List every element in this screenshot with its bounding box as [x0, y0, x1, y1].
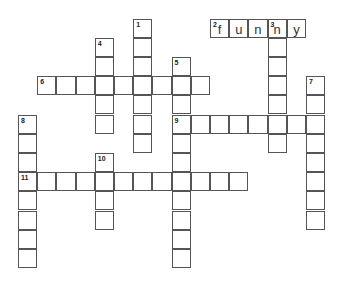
- crossword-cell[interactable]: [306, 211, 325, 230]
- crossword-cell[interactable]: u: [229, 19, 248, 38]
- crossword-cell[interactable]: [172, 153, 191, 172]
- crossword-cell[interactable]: n: [248, 19, 267, 38]
- crossword-cell[interactable]: [306, 134, 325, 153]
- crossword-cell[interactable]: [191, 172, 210, 191]
- crossword-cell[interactable]: [268, 76, 287, 95]
- clue-number: 6: [40, 78, 44, 85]
- crossword-cell[interactable]: [133, 115, 152, 134]
- crossword-cell[interactable]: [114, 76, 133, 95]
- crossword-cell[interactable]: [133, 76, 152, 95]
- crossword-cell[interactable]: [133, 95, 152, 114]
- cell-letter: u: [230, 23, 247, 36]
- crossword-cell[interactable]: 3n: [268, 19, 287, 38]
- crossword-cell[interactable]: [95, 191, 114, 210]
- crossword-cell[interactable]: 9: [172, 115, 191, 134]
- crossword-cell[interactable]: [268, 38, 287, 57]
- crossword-cell[interactable]: 4: [95, 38, 114, 57]
- crossword-cell[interactable]: [152, 172, 171, 191]
- crossword-cell[interactable]: [172, 172, 191, 191]
- crossword-cell[interactable]: [191, 76, 210, 95]
- crossword-cell[interactable]: 2f: [210, 19, 229, 38]
- crossword-cell[interactable]: [95, 211, 114, 230]
- crossword-cell[interactable]: [306, 191, 325, 210]
- clue-number: 4: [98, 40, 102, 47]
- crossword-cell[interactable]: [18, 249, 37, 268]
- crossword-cell[interactable]: [268, 57, 287, 76]
- clue-number: 5: [175, 59, 179, 66]
- crossword-cell[interactable]: [133, 172, 152, 191]
- cell-letter: n: [269, 23, 286, 36]
- crossword-cell[interactable]: 11: [18, 172, 37, 191]
- crossword-cell[interactable]: [76, 76, 95, 95]
- cell-letter: f: [211, 23, 228, 36]
- crossword-cell[interactable]: [18, 230, 37, 249]
- crossword-cell[interactable]: [18, 134, 37, 153]
- crossword-cell[interactable]: [95, 115, 114, 134]
- clue-number: 1: [136, 21, 140, 28]
- crossword-cell[interactable]: [191, 115, 210, 134]
- crossword-cell[interactable]: [306, 172, 325, 191]
- crossword-cell[interactable]: [210, 172, 229, 191]
- crossword-cell[interactable]: [229, 172, 248, 191]
- crossword-cell[interactable]: [133, 38, 152, 57]
- crossword-cell[interactable]: [172, 249, 191, 268]
- crossword-cell[interactable]: [172, 95, 191, 114]
- crossword-cell[interactable]: 5: [172, 57, 191, 76]
- crossword-cell[interactable]: [95, 57, 114, 76]
- crossword-cell[interactable]: [287, 115, 306, 134]
- clue-number: 10: [98, 155, 106, 162]
- crossword-cell[interactable]: y: [287, 19, 306, 38]
- crossword-cell[interactable]: [268, 95, 287, 114]
- crossword-cell[interactable]: [76, 172, 95, 191]
- cell-letter: n: [249, 23, 266, 36]
- clue-number: 7: [309, 78, 313, 85]
- crossword-cell[interactable]: [56, 172, 75, 191]
- crossword-cell[interactable]: [248, 115, 267, 134]
- crossword-cell[interactable]: [268, 115, 287, 134]
- crossword-cell[interactable]: [306, 115, 325, 134]
- crossword-cell[interactable]: 8: [18, 115, 37, 134]
- clue-number: 11: [21, 174, 28, 181]
- clue-number: 8: [21, 117, 25, 124]
- crossword-cell[interactable]: [18, 191, 37, 210]
- crossword-cell[interactable]: [172, 134, 191, 153]
- crossword-cell[interactable]: [229, 115, 248, 134]
- crossword-cell[interactable]: [172, 76, 191, 95]
- crossword-cell[interactable]: [133, 57, 152, 76]
- crossword-cell[interactable]: [210, 115, 229, 134]
- crossword-cell[interactable]: 6: [37, 76, 56, 95]
- crossword-cell[interactable]: [306, 95, 325, 114]
- crossword-cell[interactable]: [56, 76, 75, 95]
- crossword-cell[interactable]: [18, 153, 37, 172]
- crossword-cell[interactable]: [95, 172, 114, 191]
- crossword-cell[interactable]: [268, 134, 287, 153]
- crossword-cell[interactable]: [95, 95, 114, 114]
- crossword-cell[interactable]: [306, 153, 325, 172]
- cell-letter: y: [288, 23, 305, 36]
- crossword-cell[interactable]: 1: [133, 19, 152, 38]
- crossword-cell[interactable]: [114, 172, 133, 191]
- crossword-cell[interactable]: [37, 172, 56, 191]
- crossword-cell[interactable]: [133, 134, 152, 153]
- crossword-cell[interactable]: [172, 211, 191, 230]
- crossword-cell[interactable]: [152, 76, 171, 95]
- crossword-cell[interactable]: [172, 191, 191, 210]
- crossword-cell[interactable]: [95, 76, 114, 95]
- crossword-cell[interactable]: 7: [306, 76, 325, 95]
- crossword-grid: 12fun3ny4596781110: [0, 0, 344, 287]
- crossword-cell[interactable]: [18, 211, 37, 230]
- clue-number: 9: [175, 117, 179, 124]
- crossword-cell[interactable]: [172, 230, 191, 249]
- crossword-cell[interactable]: 10: [95, 153, 114, 172]
